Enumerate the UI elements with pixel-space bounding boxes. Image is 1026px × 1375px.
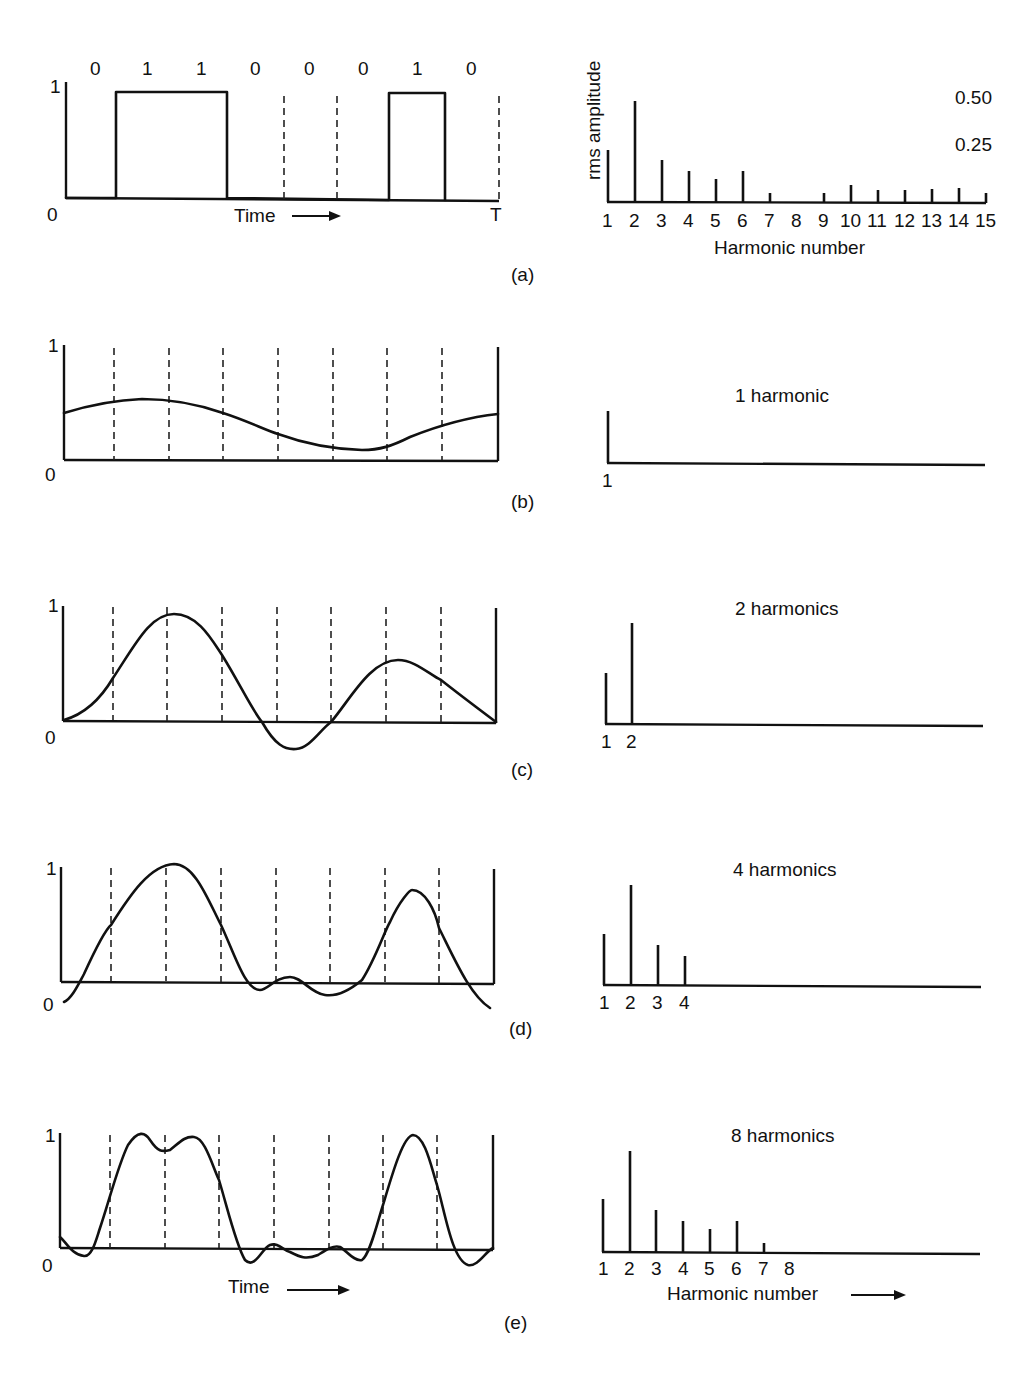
bit-label: 1 xyxy=(196,58,207,79)
harmonic-bars xyxy=(608,101,986,203)
svg-text:6: 6 xyxy=(737,210,748,231)
x-axis xyxy=(607,202,986,203)
harmonic-tick: 4 xyxy=(679,992,690,1013)
bit-label: 0 xyxy=(466,58,477,79)
x-axis xyxy=(64,460,498,461)
harmonic-tick: 1 xyxy=(599,992,610,1013)
arrow-right-icon xyxy=(292,211,341,221)
x-axis xyxy=(61,982,494,984)
svg-text:5: 5 xyxy=(710,210,721,231)
harmonic-tick: 3 xyxy=(651,1258,662,1279)
harmonic-tick: 4 xyxy=(678,1258,689,1279)
harmonic-tick: 5 xyxy=(704,1258,715,1279)
panel-caption-e: (e) xyxy=(504,1312,527,1333)
panel-e-waveform: 1 0 Time xyxy=(42,1125,493,1297)
y-tick-zero: 0 xyxy=(43,994,54,1015)
bit-label: 0 xyxy=(250,58,261,79)
panel-caption-a: (a) xyxy=(511,264,534,285)
x-axis xyxy=(603,985,981,987)
panel-b-spectrum: 1 harmonic 1 xyxy=(602,385,985,491)
x-axis xyxy=(607,463,985,465)
x-axis xyxy=(60,1248,493,1250)
harmonic-bars xyxy=(603,1151,764,1253)
harmonic-tick-labels: 1 2 3 4 5 6 7 8 9 10 11 12 13 14 15 xyxy=(602,210,996,231)
harmonic-tick: 1 xyxy=(602,470,613,491)
svg-text:3: 3 xyxy=(656,210,667,231)
spectrum-title: 4 harmonics xyxy=(733,859,837,880)
panel-c-spectrum: 2 harmonics 1 2 xyxy=(601,598,983,752)
svg-text:14: 14 xyxy=(948,210,970,231)
x-axis-label: Harmonic number xyxy=(714,237,866,258)
harmonic-tick: 6 xyxy=(731,1258,742,1279)
y-tick-050: 0.50 xyxy=(955,87,992,108)
reconstruction-curve xyxy=(64,864,490,1008)
spectrum-title: 1 harmonic xyxy=(735,385,829,406)
y-tick-one: 1 xyxy=(50,76,61,97)
reconstruction-curve xyxy=(64,614,496,749)
reconstruction-curve xyxy=(60,1134,493,1265)
panel-d-waveform: 1 0 xyxy=(43,858,494,1015)
y-tick-one: 1 xyxy=(45,1125,56,1146)
y-tick-zero: 0 xyxy=(45,727,56,748)
y-tick-one: 1 xyxy=(48,335,59,356)
fourier-harmonics-figure: 0 1 1 0 0 0 1 0 1 0 T Time rms amplitude… xyxy=(0,0,1026,1375)
bit-boundaries xyxy=(114,348,442,460)
svg-text:13: 13 xyxy=(921,210,942,231)
bit-boundaries xyxy=(113,607,441,722)
time-axis-label: Time xyxy=(234,205,276,226)
bit-label: 0 xyxy=(358,58,369,79)
harmonic-tick: 1 xyxy=(601,731,612,752)
spectrum-title: 2 harmonics xyxy=(735,598,839,619)
reconstruction-curve xyxy=(64,399,498,450)
arrow-right-icon xyxy=(851,1290,906,1300)
x-axis xyxy=(63,721,496,723)
x-axis xyxy=(605,724,983,726)
svg-text:12: 12 xyxy=(894,210,915,231)
y-tick-zero: 0 xyxy=(47,204,58,225)
svg-text:15: 15 xyxy=(975,210,996,231)
bit-label: 0 xyxy=(304,58,315,79)
harmonic-tick: 7 xyxy=(758,1258,769,1279)
panel-c-waveform: 1 0 xyxy=(45,595,496,749)
spectrum-title: 8 harmonics xyxy=(731,1125,835,1146)
harmonic-tick: 2 xyxy=(624,1258,635,1279)
x-end-label-T: T xyxy=(490,204,502,225)
y-tick-one: 1 xyxy=(48,595,59,616)
svg-text:1: 1 xyxy=(602,210,613,231)
svg-text:2: 2 xyxy=(629,210,640,231)
bit-label: 1 xyxy=(142,58,153,79)
time-axis-label: Time xyxy=(228,1276,270,1297)
panel-caption-b: (b) xyxy=(511,491,534,512)
pulse-waveform xyxy=(66,92,445,200)
panel-e-spectrum: 8 harmonics 1 2 3 4 5 6 7 8 Harmonic num… xyxy=(598,1125,980,1304)
svg-text:9: 9 xyxy=(818,210,829,231)
panel-b-waveform: 1 0 xyxy=(45,335,498,485)
bit-label: 0 xyxy=(90,58,101,79)
bit-label: 1 xyxy=(412,58,423,79)
svg-text:4: 4 xyxy=(683,210,694,231)
panel-d-spectrum: 4 harmonics 1 2 3 4 xyxy=(599,859,981,1013)
panel-caption-d: (d) xyxy=(509,1018,532,1039)
harmonic-tick: 2 xyxy=(625,992,636,1013)
svg-text:11: 11 xyxy=(867,210,887,231)
harmonic-tick: 2 xyxy=(626,731,637,752)
y-axis-label: rms amplitude xyxy=(583,61,604,180)
svg-text:10: 10 xyxy=(840,210,861,231)
harmonic-tick: 3 xyxy=(652,992,663,1013)
harmonic-tick: 1 xyxy=(598,1258,609,1279)
y-tick-one: 1 xyxy=(46,858,57,879)
y-tick-025: 0.25 xyxy=(955,134,992,155)
bit-boundaries xyxy=(111,868,439,983)
y-tick-zero: 0 xyxy=(42,1255,53,1276)
x-axis-label: Harmonic number xyxy=(667,1283,819,1304)
panel-caption-c: (c) xyxy=(511,759,533,780)
svg-text:8: 8 xyxy=(791,210,802,231)
panel-a-pulse-train: 0 1 1 0 0 0 1 0 1 0 T Time xyxy=(47,58,502,226)
y-tick-zero: 0 xyxy=(45,464,56,485)
arrow-right-icon xyxy=(287,1285,350,1295)
harmonic-tick: 8 xyxy=(784,1258,795,1279)
x-axis xyxy=(602,1252,980,1254)
svg-text:7: 7 xyxy=(764,210,775,231)
panel-a-spectrum: rms amplitude 0.50 0.25 1 2 3 4 5 6 xyxy=(583,61,996,258)
